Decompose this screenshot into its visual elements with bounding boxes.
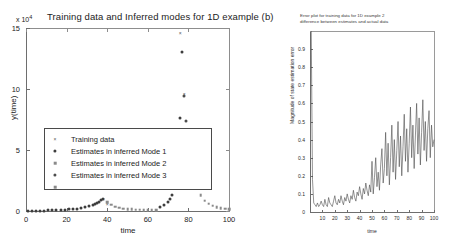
- right-x-tick-label: 80: [406, 215, 412, 221]
- data-point: [71, 208, 74, 211]
- data-point: [130, 208, 133, 211]
- data-point: [43, 209, 46, 212]
- right-y-tick-label: 0.9: [258, 46, 305, 52]
- data-point: [59, 208, 62, 211]
- right-x-tick-label: 90: [419, 215, 425, 221]
- left-y-tick-label: 10: [0, 85, 20, 94]
- data-point: [106, 201, 109, 204]
- right-x-tick-label: 100: [430, 215, 438, 221]
- data-point: [142, 209, 145, 212]
- right-y-tick-label: 0.7: [258, 82, 305, 88]
- data-point: [55, 209, 58, 212]
- data-point: [163, 203, 166, 206]
- data-point: [228, 208, 231, 211]
- legend-square-marker-icon: [54, 186, 57, 189]
- left-x-tick-top: [107, 28, 108, 32]
- left-right-spine: [229, 28, 230, 212]
- data-point: [87, 205, 90, 208]
- data-point: [185, 119, 188, 122]
- y-axis-exponent: x 104: [16, 14, 32, 23]
- left-x-tick-top: [67, 28, 68, 32]
- right-y-tick-label: 0.3: [258, 155, 305, 161]
- right-y-tick-label: 0.2: [258, 173, 305, 179]
- legend-item-extra-marker: [45, 181, 211, 193]
- data-point: [67, 208, 70, 211]
- left-y-tick: [26, 89, 30, 90]
- left-y-tick-label: 5: [0, 146, 20, 155]
- left-y-tick-right: [226, 150, 230, 151]
- data-point: [75, 207, 78, 210]
- legend-dot-marker-icon: [54, 162, 57, 165]
- exponent-power: 4: [29, 14, 32, 20]
- left-y-tick-right: [226, 89, 230, 90]
- legend-dot-marker-icon: [53, 173, 56, 176]
- data-point: [102, 197, 105, 200]
- left-x-tick-label: 60: [144, 215, 152, 224]
- right-x-tick-label: 20: [332, 215, 338, 221]
- legend-item: Estimates in inferred Mode 3: [45, 169, 211, 181]
- data-point: [183, 95, 186, 98]
- right-y-tick-label: 0: [258, 209, 305, 215]
- data-point: [39, 209, 42, 212]
- data-point: [207, 202, 210, 205]
- error-polyline: [311, 31, 434, 207]
- right-x-tick-label: 10: [320, 215, 326, 221]
- right-x-tick-label: 60: [382, 215, 388, 221]
- data-point: [203, 199, 206, 202]
- left-x-axis-label: time: [120, 226, 135, 235]
- legend-x-marker-icon: ×: [54, 137, 57, 142]
- exponent-prefix: x 10: [16, 16, 29, 23]
- data-point: [220, 207, 223, 210]
- data-point-x: ×: [179, 30, 182, 35]
- data-point: [151, 209, 154, 212]
- data-point: [51, 209, 54, 212]
- data-point: [169, 198, 172, 201]
- right-title-line-2: difference between estimates and actual …: [300, 19, 460, 25]
- figure-canvas: x 104 Training data and Inferred modes f…: [0, 0, 463, 252]
- left-y-tick-label: 0: [0, 207, 20, 216]
- data-point: [126, 208, 129, 211]
- legend-label: Estimates in inferred Mode 1: [71, 147, 166, 156]
- left-top-spine: [26, 28, 230, 29]
- left-y-tick-right: [226, 28, 230, 29]
- left-y-tick-right: [226, 211, 230, 212]
- right-y-tick-label: 0.5: [258, 119, 305, 125]
- left-y-axis-line: [26, 28, 27, 212]
- legend-item: Estimates in inferred Mode 1: [45, 145, 211, 157]
- left-plot-title: Training data and Inferred modes for 1D …: [47, 11, 274, 22]
- data-point: [155, 209, 158, 212]
- data-point: [181, 51, 184, 54]
- right-plot-title: Error plot for training data for 1D exam…: [300, 13, 460, 25]
- right-x-tick-label: 30: [344, 215, 350, 221]
- left-x-tick: [188, 208, 189, 212]
- right-y-tick-label: 0.1: [258, 191, 305, 197]
- left-legend: ×Training dataEstimates in inferred Mode…: [44, 128, 212, 190]
- left-y-tick-label: 15: [0, 24, 20, 33]
- data-point: [118, 207, 121, 210]
- right-y-tick-label: 0.4: [258, 137, 305, 143]
- data-point: [83, 206, 86, 209]
- data-point: [199, 194, 202, 197]
- data-point: [211, 205, 214, 208]
- right-y-tick-label: 0.6: [258, 100, 305, 106]
- data-point: [27, 209, 30, 212]
- left-x-tick-label: 40: [103, 215, 111, 224]
- legend-label: Estimates in inferred Mode 2: [71, 159, 166, 168]
- data-point: [35, 209, 38, 212]
- left-x-tick: [107, 208, 108, 212]
- data-point: [110, 204, 113, 207]
- left-y-axis-label: y(time): [9, 96, 18, 120]
- legend-item: Estimates in inferred Mode 2: [45, 157, 211, 169]
- left-x-tick-label: 100: [223, 215, 236, 224]
- data-point: [47, 209, 50, 212]
- right-x-tick-label: 70: [394, 215, 400, 221]
- left-x-tick-label: 0: [24, 215, 28, 224]
- legend-item: ×Training data: [45, 133, 211, 145]
- right-axes: [310, 31, 435, 213]
- data-point: [216, 206, 219, 209]
- right-figure: Error plot for training data for 1D exam…: [258, 0, 463, 252]
- right-x-tick-label: 40: [357, 215, 363, 221]
- left-x-tick-label: 20: [62, 215, 70, 224]
- left-x-tick-top: [148, 28, 149, 32]
- error-trace: [310, 31, 435, 213]
